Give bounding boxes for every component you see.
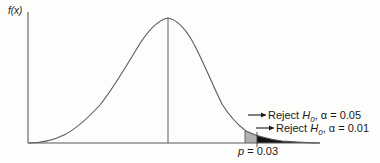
annotation-reject-alpha-01: Reject H0, α = 0.01 [276, 123, 369, 137]
leader-arrow-alpha-05-icon [248, 113, 266, 118]
hypothesis-symbol-01: H [310, 122, 318, 134]
distribution-plot [0, 0, 380, 163]
statistics-figure: f(x) Reject H0, α = 0.05 Reject H0, α = … [0, 0, 380, 163]
annotation-p-value: p = 0.03 [238, 146, 278, 157]
y-axis-label: f(x) [8, 6, 22, 16]
reject-prefix-01: Reject [276, 122, 310, 134]
hypothesis-symbol-05: H [302, 109, 310, 121]
p-value-number: = 0.03 [244, 145, 278, 157]
alpha-value-01: , α = 0.01 [323, 122, 369, 134]
alpha-value-05: , α = 0.05 [315, 109, 361, 121]
leader-arrow-alpha-01-icon [256, 126, 274, 131]
reject-prefix-05: Reject [268, 109, 302, 121]
